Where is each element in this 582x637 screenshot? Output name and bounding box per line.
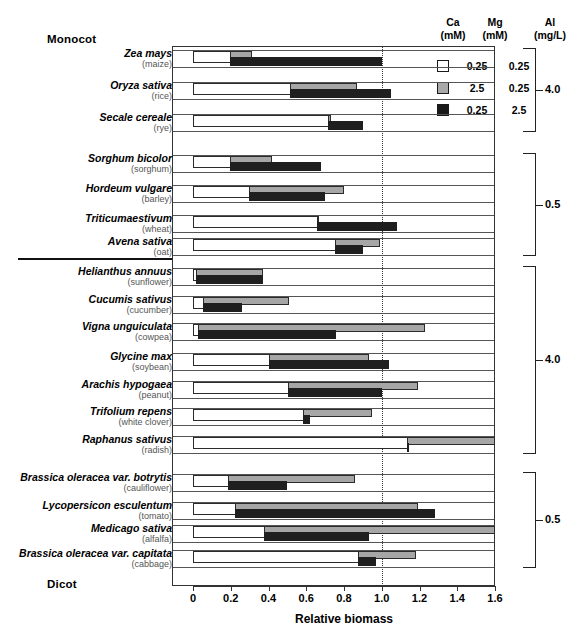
x-axis-tick-label: 1.2 [405, 592, 435, 604]
bar-black [335, 245, 362, 254]
x-axis-tick [344, 586, 345, 591]
bar-black [303, 415, 310, 424]
x-axis-tick [269, 586, 270, 591]
species-common-name: (rice) [152, 91, 173, 101]
species-scientific-name: Zea mays [124, 48, 172, 59]
legend-header-ca-line2: (mM) [435, 29, 471, 42]
row-separator [173, 285, 494, 286]
species-scientific-name: Medicago sativa [91, 523, 172, 534]
bar-black [288, 388, 381, 397]
row-separator [173, 542, 494, 543]
row-separator [173, 255, 494, 256]
bar-white [193, 475, 229, 487]
bar-black [196, 275, 263, 284]
legend-ca-value: 0.25 [457, 60, 497, 72]
x-axis-tick-label: 1.0 [367, 592, 397, 604]
al-bracket [523, 153, 536, 256]
bar-white [193, 551, 359, 563]
species-common-name: (sunflower) [127, 277, 172, 287]
bar-white [193, 51, 231, 63]
x-axis-tick-label: 0.2 [216, 592, 246, 604]
bar-white [193, 526, 265, 538]
bar-black [228, 481, 288, 490]
species-scientific-name: Raphanus sativus [82, 434, 172, 445]
row-separator [173, 567, 494, 568]
species-scientific-name: Trifolium repens [90, 406, 172, 417]
bar-black [203, 303, 242, 312]
species-common-name: (cabbage) [131, 559, 172, 569]
species-common-name: (peanut) [138, 390, 172, 400]
row-separator [173, 340, 494, 341]
al-bracket-tick [536, 520, 543, 521]
legend-header-mg-line1: Mg [477, 16, 513, 29]
x-axis-tick [495, 586, 496, 591]
relative-biomass-chart: Monocot Dicot Ca (mM) Mg (mM) Al (mg/L) … [0, 0, 582, 637]
row-separator [173, 232, 494, 233]
al-bracket-tick [536, 90, 543, 91]
species-common-name: (oat) [153, 247, 172, 257]
x-axis-tick-label: 0 [178, 592, 208, 604]
species-common-name: (radish) [141, 445, 172, 455]
bar-white [193, 156, 231, 168]
x-axis-tick [382, 586, 383, 591]
monocot-group-label: Monocot [47, 33, 96, 45]
species-common-name: (soybean) [132, 362, 172, 372]
x-axis-tick-label: 0.4 [254, 592, 284, 604]
x-axis-tick-label: 1.6 [480, 592, 510, 604]
legend-ca-value: 2.5 [457, 82, 497, 94]
x-axis-tick-label: 0.6 [291, 592, 321, 604]
species-scientific-name: Brassica oleracea var. botrytis [20, 472, 172, 483]
species-common-name: (wheat) [142, 224, 172, 234]
bar-black [235, 509, 434, 518]
row-separator [173, 491, 494, 492]
legend-header-al: Al (mg/L) [525, 16, 575, 41]
species-common-name: (barley) [141, 194, 172, 204]
bar-white [193, 239, 336, 251]
species-common-name: (cauliflower) [123, 483, 172, 493]
species-common-name: (sorghum) [131, 164, 172, 174]
x-axis-tick [420, 586, 421, 591]
x-axis-tick [457, 586, 458, 591]
al-bracket-label: 0.5 [545, 198, 560, 210]
bar-black [249, 192, 326, 201]
bar-white [193, 409, 304, 421]
species-scientific-name: Secale cereale [100, 112, 172, 123]
al-bracket-label: 4.0 [545, 83, 560, 95]
row-separator [173, 172, 494, 173]
species-scientific-name: Cucumis sativus [89, 294, 172, 305]
monocot-dicot-divider [18, 258, 172, 260]
al-bracket-tick [536, 360, 543, 361]
legend-header-ca-line1: Ca [435, 16, 471, 29]
legend-swatch-gray-icon [437, 82, 449, 94]
row-separator [173, 398, 494, 399]
species-scientific-name: Brassica oleracea var. capitata [19, 548, 172, 559]
row-separator [173, 67, 494, 68]
legend-header-mg: Mg (mM) [477, 16, 513, 41]
bar-black [328, 121, 363, 130]
bar-black [230, 162, 322, 171]
species-scientific-name: Helianthus annuus [78, 266, 172, 277]
legend-header-mg-line2: (mM) [477, 29, 513, 42]
x-axis-tick-label: 1.4 [442, 592, 472, 604]
row-separator [173, 453, 494, 454]
bar-white [193, 115, 329, 127]
species-common-name: (maize) [142, 59, 172, 69]
row-separator [173, 370, 494, 371]
legend-entry-white: 0.250.25 [437, 58, 449, 73]
al-bracket-tick [536, 205, 543, 206]
bar-black [358, 557, 376, 566]
x-axis-tick [231, 586, 232, 591]
species-common-name: (tomato) [138, 511, 172, 521]
species-scientific-name: Triticumaestivum [85, 213, 172, 224]
legend-header-al-line2: (mg/L) [525, 29, 575, 42]
species-common-name: (cowpea) [135, 332, 172, 342]
al-bracket [523, 472, 536, 568]
al-bracket [523, 48, 536, 132]
species-common-name: (cucumber) [126, 305, 172, 315]
bar-white [193, 437, 408, 449]
species-scientific-name: Arachis hypogaea [82, 379, 172, 390]
species-scientific-name: Oryza sativa [110, 80, 172, 91]
x-axis-tick-label: 0.8 [329, 592, 359, 604]
x-axis-tick [193, 586, 194, 591]
bar-black [317, 222, 397, 231]
